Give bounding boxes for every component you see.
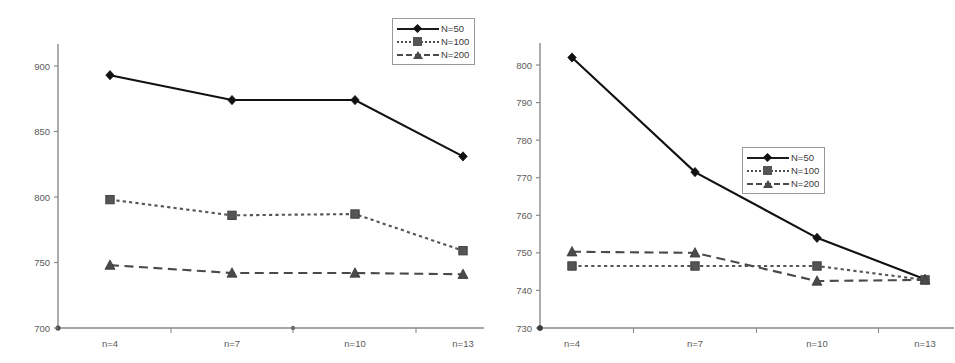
svg-text:n=4: n=4 (564, 338, 580, 349)
svg-text:n=10: n=10 (806, 338, 827, 349)
legend-row-n200: N=200 (747, 177, 819, 190)
legend-row-n50: N=50 (747, 151, 819, 164)
legend-label-n100: N=100 (789, 165, 819, 176)
legend-right: N=50 N=100 N=200 (742, 147, 825, 194)
legend-key-n200-icon (747, 178, 789, 189)
legend-row-n100: N=100 (747, 164, 819, 177)
legend-label-n200: N=200 (789, 178, 819, 189)
svg-text:900: 900 (34, 61, 50, 72)
legend-label-n50: N=50 (439, 23, 464, 34)
legend-row-n100: N=100 (397, 35, 469, 48)
svg-text:800: 800 (516, 60, 532, 71)
svg-text:850: 850 (34, 126, 50, 137)
svg-text:770: 770 (516, 172, 532, 183)
legend-key-n50-icon (397, 23, 439, 34)
svg-text:n=10: n=10 (344, 338, 365, 349)
legend-row-n200: N=200 (397, 48, 469, 61)
svg-text:n=13: n=13 (452, 338, 473, 349)
svg-text:750: 750 (516, 247, 532, 258)
legend-label-n200: N=200 (439, 49, 469, 60)
svg-text:790: 790 (516, 97, 532, 108)
svg-text:730: 730 (516, 323, 532, 334)
svg-text:800: 800 (34, 192, 50, 203)
svg-text:n=7: n=7 (224, 338, 240, 349)
legend-label-n50: N=50 (789, 152, 814, 163)
legend-row-n50: N=50 (397, 22, 469, 35)
svg-text:700: 700 (34, 323, 50, 334)
legend-key-n100-icon (397, 36, 439, 47)
svg-text:n=13: n=13 (914, 338, 935, 349)
figure-two-panel-line-charts: 700750800850900n=4n=7n=10n=13 N=50 N=100… (0, 0, 955, 363)
svg-text:760: 760 (516, 210, 532, 221)
chart-right-canvas: 730740750760770780790800n=4n=7n=10n=13 (487, 0, 955, 363)
legend-label-n100: N=100 (439, 36, 469, 47)
svg-text:n=4: n=4 (102, 338, 118, 349)
legend-key-n50-icon (747, 152, 789, 163)
svg-text:750: 750 (34, 257, 50, 268)
chart-panel-right: 730740750760770780790800n=4n=7n=10n=13 N… (487, 0, 955, 363)
svg-text:n=7: n=7 (687, 338, 703, 349)
legend-left: N=50 N=100 N=200 (392, 18, 475, 65)
legend-key-n200-icon (397, 49, 439, 60)
svg-text:740: 740 (516, 285, 532, 296)
legend-key-n100-icon (747, 165, 789, 176)
chart-panel-left: 700750800850900n=4n=7n=10n=13 N=50 N=100… (0, 0, 487, 363)
svg-text:780: 780 (516, 135, 532, 146)
